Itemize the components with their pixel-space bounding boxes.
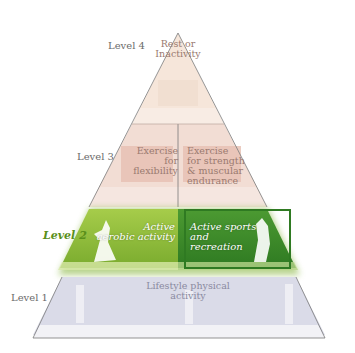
- level-4-label: Level 4: [108, 40, 145, 51]
- aerobic-activity-text: Active aerobic activity: [95, 222, 175, 242]
- level-1-label: Level 1: [11, 292, 48, 303]
- activity-pyramid: Level 4 Level 3 Level 2 Level 1 Rest or …: [0, 0, 355, 353]
- sports-recreation-text: Active sports and recreation: [190, 222, 260, 252]
- rest-or-inactivity-text: Rest or Inactivity: [150, 39, 206, 59]
- level-3-label: Level 3: [77, 151, 114, 162]
- strength-endurance-text: Exercise for strength & muscular enduran…: [187, 146, 247, 186]
- level-2-segment: [58, 209, 298, 270]
- walker-icon: [285, 284, 293, 324]
- resting-person-icon: [158, 80, 198, 106]
- flexibility-text: Exercise for flexibility: [128, 146, 178, 176]
- level-2-label: Level 2: [43, 229, 87, 242]
- lifestyle-activity-text: Lifestyle physical activity: [128, 281, 248, 301]
- golfer-icon: [76, 285, 84, 323]
